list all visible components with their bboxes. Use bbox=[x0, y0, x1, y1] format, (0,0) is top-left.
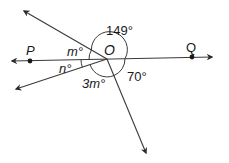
label-70: 70° bbox=[127, 70, 147, 83]
angle-diagram: 149° O P Q m° n° 3m° 70° bbox=[0, 0, 229, 163]
label-Q: Q bbox=[186, 41, 196, 54]
point-Q bbox=[190, 55, 195, 60]
ray-upper-left bbox=[24, 11, 107, 59]
label-m: m° bbox=[67, 45, 83, 58]
label-P: P bbox=[26, 44, 35, 57]
point-P bbox=[28, 59, 33, 64]
arc-70 bbox=[114, 59, 125, 76]
label-3m: 3m° bbox=[82, 77, 105, 90]
arc-m bbox=[89, 50, 91, 59]
label-n: n° bbox=[59, 62, 71, 75]
arc-n bbox=[81, 60, 82, 68]
label-O: O bbox=[104, 43, 115, 57]
label-149: 149° bbox=[106, 24, 133, 37]
